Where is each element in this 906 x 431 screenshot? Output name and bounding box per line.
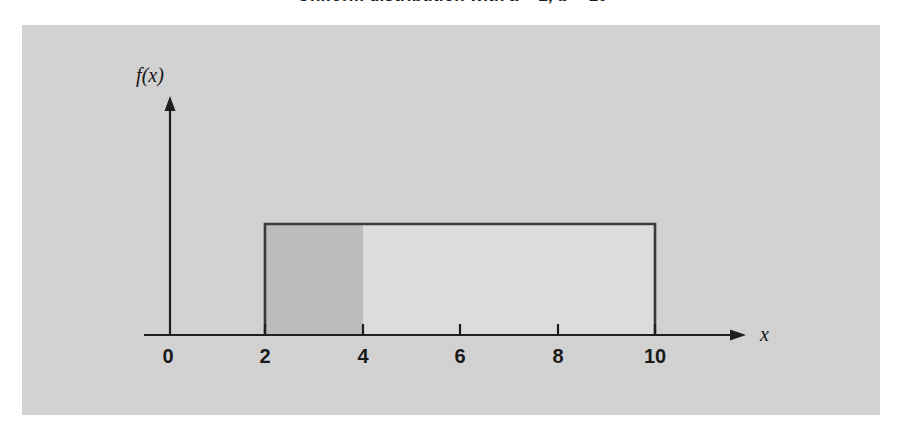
figure-title-parameters: a = 2, b = 10 [510,0,609,5]
x-axis-label: x [759,323,769,345]
x-tick-label-2: 2 [259,345,270,367]
x-tick-label-4: 4 [357,345,369,367]
uniform-distribution-chart: 0 2 4 6 8 10 f(x) x [22,25,880,415]
y-axis-label: f(x) [136,64,164,87]
x-axis-arrowhead [730,330,746,341]
shaded-probability-region [265,224,363,335]
x-tick-label-6: 6 [454,345,465,367]
figure-title: Uniform distribution with a = 2, b = 10 [0,0,906,6]
y-axis-arrowhead [165,96,176,111]
x-tick-label-0: 0 [162,345,173,367]
x-tick-label-8: 8 [552,345,563,367]
x-tick-label-10: 10 [644,345,666,367]
figure-title-prefix: Uniform distribution with [297,0,509,5]
plot-panel: 0 2 4 6 8 10 f(x) x [22,25,880,415]
